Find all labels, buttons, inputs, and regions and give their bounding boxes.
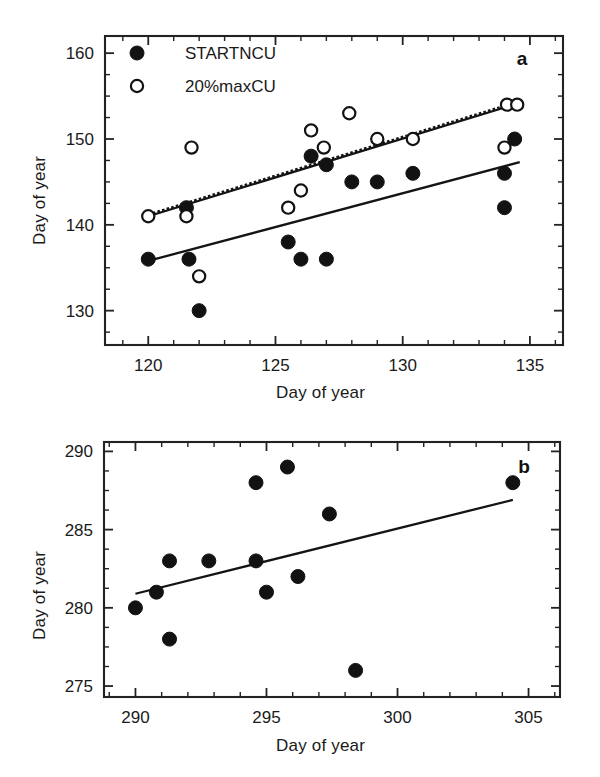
trend-line-20%maxCU-fit-solid — [148, 103, 519, 216]
panel-letter: a — [517, 48, 528, 69]
x-tick-label: 300 — [383, 708, 411, 727]
x-tick-label: 295 — [252, 708, 280, 727]
data-point-STARTNCU — [128, 601, 142, 615]
x-tick-label: 305 — [514, 708, 542, 727]
x-tick-label: 290 — [121, 708, 149, 727]
data-point-STARTNCU — [319, 252, 333, 266]
figure-root: 120125130135130140150160aSTARTNCU20%maxC… — [0, 0, 600, 777]
legend-label: 20%maxCU — [185, 77, 276, 96]
data-point-STARTNCU — [497, 201, 511, 215]
data-point-STARTNCU — [322, 507, 336, 521]
data-point-20%maxCU — [193, 270, 205, 282]
data-point-20%maxCU — [498, 141, 510, 153]
panel-a: 120125130135130140150160aSTARTNCU20%maxC… — [0, 0, 600, 400]
data-point-STARTNCU — [202, 554, 216, 568]
data-point-STARTNCU — [259, 585, 273, 599]
data-point-STARTNCU — [294, 252, 308, 266]
data-point-STARTNCU — [281, 235, 295, 249]
plot-frame — [105, 36, 563, 345]
y-tick-label: 130 — [66, 302, 94, 321]
data-point-20%maxCU — [142, 210, 154, 222]
axis-ticks — [105, 36, 563, 345]
data-point-STARTNCU — [497, 166, 511, 180]
y-tick-label: 140 — [66, 216, 94, 235]
data-point-20%maxCU — [318, 141, 330, 153]
panel-b-canvas: 290295300305275280285290b — [0, 400, 600, 730]
plot-frame — [104, 442, 560, 697]
data-point-STARTNCU — [163, 632, 177, 646]
x-tick-label: 130 — [389, 356, 417, 375]
data-point-STARTNCU — [249, 476, 263, 490]
data-point-STARTNCU — [506, 476, 520, 490]
data-point-STARTNCU — [291, 570, 305, 584]
data-point-STARTNCU — [141, 252, 155, 266]
trend-line-20%maxCU-fit-dotted — [148, 101, 519, 214]
data-point-20%maxCU — [185, 141, 197, 153]
data-point-STARTNCU — [280, 460, 294, 474]
legend-marker-filled-circle — [130, 46, 144, 60]
axis-ticks — [104, 442, 560, 697]
data-point-STARTNCU — [319, 158, 333, 172]
legend-marker-open-circle — [131, 80, 143, 92]
plot-area — [141, 99, 523, 318]
panel-b-y-axis-title: Day of year — [30, 551, 50, 640]
data-point-STARTNCU — [304, 149, 318, 163]
y-tick-label: 275 — [65, 677, 93, 696]
data-point-20%maxCU — [407, 133, 419, 145]
y-tick-label: 290 — [65, 442, 93, 461]
legend-label: STARTNCU — [185, 44, 276, 63]
x-tick-label: 120 — [134, 356, 162, 375]
y-tick-label: 280 — [65, 599, 93, 618]
panel-a-y-axis-title: Day of year — [30, 156, 50, 245]
data-point-STARTNCU — [192, 304, 206, 318]
x-tick-label: 125 — [261, 356, 289, 375]
data-point-20%maxCU — [371, 133, 383, 145]
panel-letter: b — [518, 456, 530, 477]
data-point-STARTNCU — [345, 175, 359, 189]
trend-line-STARTNCU-fit — [148, 162, 519, 261]
y-tick-label: 285 — [65, 521, 93, 540]
data-point-20%maxCU — [295, 184, 307, 196]
data-point-STARTNCU — [406, 166, 420, 180]
y-tick-label: 160 — [66, 44, 94, 63]
data-point-STARTNCU — [370, 175, 384, 189]
data-point-STARTNCU — [182, 252, 196, 266]
panel-b-x-axis-title: Day of year — [276, 736, 365, 756]
data-point-20%maxCU — [180, 210, 192, 222]
x-tick-label: 135 — [516, 356, 544, 375]
data-point-STARTNCU — [249, 554, 263, 568]
data-point-STARTNCU — [149, 585, 163, 599]
data-point-20%maxCU — [282, 202, 294, 214]
panel-a-canvas: 120125130135130140150160aSTARTNCU20%maxC… — [0, 0, 600, 400]
y-tick-label: 150 — [66, 130, 94, 149]
panel-b: 290295300305275280285290b — [0, 400, 600, 730]
data-point-20%maxCU — [305, 124, 317, 136]
plot-area — [128, 460, 519, 677]
data-point-STARTNCU — [349, 663, 363, 677]
data-point-STARTNCU — [163, 554, 177, 568]
data-point-20%maxCU — [343, 107, 355, 119]
data-point-20%maxCU — [511, 99, 523, 111]
